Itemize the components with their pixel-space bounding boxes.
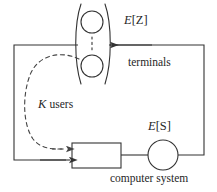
think-time-arg: [Z] bbox=[132, 13, 148, 27]
service-time-label: E[S] bbox=[148, 120, 171, 133]
terminals-label: terminals bbox=[128, 57, 171, 69]
terminals-bracket-right bbox=[105, 4, 110, 84]
service-time-symbol: E bbox=[148, 119, 156, 133]
queue-box bbox=[72, 143, 121, 168]
terminals-group bbox=[76, 4, 111, 84]
terminal-upper-circle bbox=[81, 11, 103, 33]
computer-system-label: computer system bbox=[110, 173, 188, 185]
users-label: K users bbox=[38, 98, 73, 111]
users-count: K bbox=[38, 97, 46, 111]
users-word: users bbox=[49, 98, 73, 110]
diagram-canvas bbox=[0, 0, 217, 192]
terminal-lower-circle bbox=[81, 55, 103, 77]
terminals-bracket-left bbox=[76, 4, 81, 84]
terminal-think-time-label: E[Z] bbox=[124, 14, 148, 27]
server-circle bbox=[148, 140, 178, 170]
think-time-symbol: E bbox=[124, 13, 132, 27]
service-time-arg: [S] bbox=[156, 119, 171, 133]
queueing-network-diagram: E[Z] terminals K users E[S] computer sys… bbox=[0, 0, 217, 192]
